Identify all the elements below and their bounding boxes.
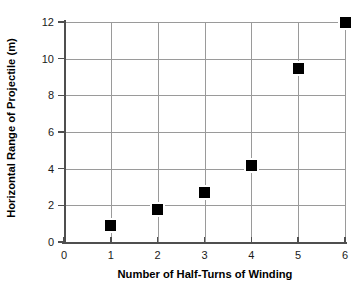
- gridline-vertical: [111, 22, 112, 242]
- x-tick-mark: [251, 237, 252, 243]
- x-axis-title: Number of Half-Turns of Winding: [64, 268, 346, 280]
- x-tick-mark: [344, 237, 345, 243]
- y-tick-label: 6: [32, 126, 54, 138]
- x-tick-label: 2: [148, 249, 168, 261]
- gridline-vertical: [205, 22, 206, 242]
- y-axis-line: [64, 20, 66, 244]
- y-tick-label: 12: [32, 16, 54, 28]
- y-axis-title-container: Horizontal Range of Projectile (m): [0, 0, 22, 255]
- data-point-marker: [150, 202, 165, 217]
- gridline-vertical: [251, 22, 252, 242]
- x-tick-label: 6: [335, 249, 355, 261]
- gridline-vertical: [298, 22, 299, 242]
- x-tick-label: 4: [241, 249, 261, 261]
- gridline-vertical: [345, 22, 346, 242]
- x-tick-label: 3: [195, 249, 215, 261]
- x-tick-label: 0: [54, 249, 74, 261]
- y-tick-mark: [58, 205, 64, 206]
- x-tick-mark: [157, 237, 158, 243]
- y-tick-label: 8: [32, 89, 54, 101]
- plot-area: [64, 22, 345, 242]
- y-tick-mark: [58, 131, 64, 132]
- x-tick-mark: [204, 237, 205, 243]
- data-point-marker: [244, 158, 259, 173]
- y-tick-mark: [58, 95, 64, 96]
- y-axis-title: Horizontal Range of Projectile (m): [5, 38, 17, 218]
- x-tick-label: 1: [101, 249, 121, 261]
- y-tick-label: 2: [32, 199, 54, 211]
- data-point-marker: [197, 185, 212, 200]
- y-tick-mark: [58, 58, 64, 59]
- y-tick-mark: [58, 168, 64, 169]
- x-tick-mark: [297, 237, 298, 243]
- scatter-chart: Horizontal Range of Projectile (m) 02468…: [0, 0, 364, 295]
- y-tick-label: 10: [32, 53, 54, 65]
- y-tick-label: 4: [32, 163, 54, 175]
- y-tick-mark: [58, 21, 64, 22]
- data-point-marker: [338, 15, 353, 30]
- data-point-marker: [291, 61, 306, 76]
- x-tick-mark: [63, 237, 64, 243]
- x-tick-label: 5: [288, 249, 308, 261]
- y-tick-label: 0: [32, 236, 54, 248]
- data-point-marker: [103, 218, 118, 233]
- x-tick-mark: [110, 237, 111, 243]
